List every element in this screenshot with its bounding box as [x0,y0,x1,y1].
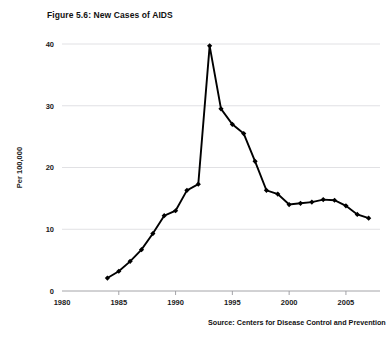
figure-container: Figure 5.6: New Cases of AIDS 010203040 … [0,0,392,346]
data-point-2002 [309,199,314,204]
x-tick-label-2000: 2000 [281,298,298,307]
data-point-1998 [264,188,269,193]
axes [62,291,380,295]
y-tick-label-10: 10 [46,225,54,234]
y-tick-label-30: 30 [46,102,54,111]
y-axis-label: Per 100,000 [15,147,24,188]
x-tick-label-1985: 1985 [110,298,127,307]
x-axis-tick-labels: 198019851990199520002005 [54,298,355,307]
x-tick-label-1980: 1980 [54,298,71,307]
data-point-2007 [366,216,371,221]
y-tick-label-0: 0 [50,287,54,296]
series-line-new-aids-cases [107,46,368,278]
y-axis-title: Per 100,000 [15,147,24,188]
line-chart: 010203040 198019851990199520002005 Per 1… [0,0,392,346]
x-tick-label-2005: 2005 [338,298,355,307]
data-series [107,46,368,278]
x-tick-label-1990: 1990 [167,298,184,307]
source-note: Source: Centers for Disease Control and … [208,318,386,327]
data-point-1997 [252,159,257,164]
y-axis-tick-labels: 010203040 [46,40,54,296]
data-point-2003 [321,197,326,202]
y-tick-label-40: 40 [46,40,54,49]
data-point-2001 [298,201,303,206]
x-tick-label-1995: 1995 [224,298,241,307]
gridlines [62,44,380,229]
y-tick-label-20: 20 [46,163,54,172]
